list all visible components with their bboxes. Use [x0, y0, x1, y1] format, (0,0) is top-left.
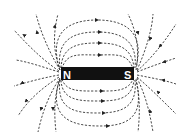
top-field-arcs — [56, 20, 138, 69]
south-pole-label: S — [124, 69, 131, 81]
field-lines-figure: N S — [0, 0, 185, 135]
bar-magnet-diagram: N S — [0, 0, 185, 135]
bottom-field-arcs — [56, 79, 138, 126]
left-radial-lines — [14, 14, 60, 132]
north-pole-label: N — [63, 69, 71, 81]
bar-magnet: N S — [61, 67, 134, 81]
right-radial-lines — [128, 14, 176, 132]
